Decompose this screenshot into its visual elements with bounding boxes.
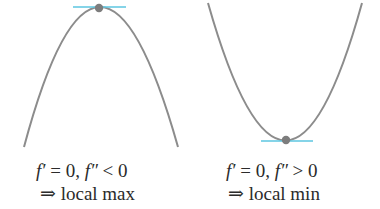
implies-arrow-icon: ⇒ (228, 183, 244, 204)
equals-zero-text: = 0, (235, 160, 274, 181)
critical-point-dot (282, 136, 290, 144)
second-derivative-symbol: f″ (85, 160, 98, 181)
concave-up-curve (208, 3, 362, 141)
equals-zero-text: = 0, (45, 160, 84, 181)
local-min-condition: f′ = 0, f″ > 0 (226, 161, 318, 180)
concave-down-curve (24, 7, 178, 147)
inequality-text: > 0 (288, 160, 318, 181)
critical-point-dot (95, 4, 103, 12)
conclusion-text: local min (249, 183, 320, 204)
conclusion-text: local max (61, 183, 135, 204)
local-max-condition: f′ = 0, f″ < 0 (36, 161, 128, 180)
inequality-text: < 0 (98, 160, 128, 181)
local-max-conclusion: ⇒ local max (40, 184, 135, 203)
implies-arrow-icon: ⇒ (40, 183, 56, 204)
local-max-graph (24, 4, 178, 147)
second-derivative-symbol: f″ (275, 160, 288, 181)
local-min-conclusion: ⇒ local min (228, 184, 320, 203)
local-min-graph (208, 3, 362, 144)
